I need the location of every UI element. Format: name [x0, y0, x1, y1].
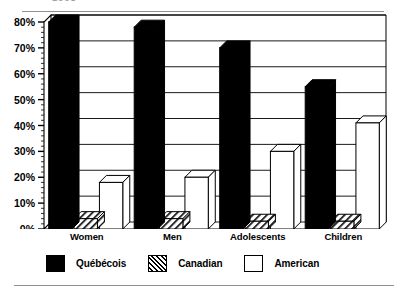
- bottom-divider-rule: [14, 285, 394, 286]
- y-tick-label: 40%: [14, 120, 36, 132]
- bar-front-face: [305, 87, 328, 229]
- bar-québécois-adolescents: [220, 41, 250, 229]
- y-tick-label: 0%: [20, 223, 36, 229]
- legend-item-canadian: Canadian: [148, 255, 222, 272]
- caption-partial-text: 1993: [52, 0, 76, 3]
- y-tick-label: 20%: [14, 171, 36, 183]
- bar-front-face: [220, 48, 243, 229]
- figure-bar-chart: 1993 80%70%60%50%40%30%20%10%0% Women Me…: [0, 0, 408, 300]
- bar-side-face: [379, 116, 386, 229]
- legend-item-quebecois: Québécois: [46, 255, 126, 272]
- x-category-adolescents: Adolescents: [215, 231, 301, 245]
- bar-front-face: [49, 22, 72, 229]
- bars: [49, 15, 387, 229]
- y-tick-labels: 80%70%60%50%40%30%20%10%0%: [14, 16, 44, 229]
- y-tick-label: 30%: [14, 145, 36, 157]
- bar-side-face: [72, 15, 79, 229]
- bar-front-face: [134, 27, 157, 229]
- legend-swatch-american-icon: [244, 255, 263, 272]
- bar-québécois-children: [305, 80, 335, 229]
- bar-american-children: [356, 116, 386, 229]
- y-tick-label: 70%: [14, 42, 36, 54]
- y-tick-label: 10%: [14, 197, 36, 209]
- legend-swatch-quebecois-icon: [46, 255, 65, 272]
- x-category-men: Men: [130, 231, 216, 245]
- chart-legend: Québécois Canadian American: [46, 252, 376, 274]
- top-divider-rule: [22, 11, 384, 12]
- legend-label-quebecois: Québécois: [76, 258, 126, 269]
- x-category-children: Children: [301, 231, 387, 245]
- bar-side-face: [329, 80, 336, 229]
- legend-item-american: American: [244, 255, 319, 272]
- bar-side-face: [243, 41, 250, 229]
- bar-side-face: [208, 170, 215, 229]
- bar-québécois-men: [134, 20, 164, 229]
- y-tick-label: 60%: [14, 68, 36, 80]
- bar-québécois-women: [49, 15, 79, 229]
- y-tick-label: 80%: [14, 16, 36, 28]
- bar-side-face: [294, 144, 301, 229]
- bar-side-face: [158, 20, 165, 229]
- chart-canvas: 80%70%60%50%40%30%20%10%0%: [0, 14, 408, 229]
- bar-front-face: [356, 123, 379, 229]
- bar-side-face: [123, 175, 130, 229]
- legend-label-american: American: [274, 258, 319, 269]
- legend-label-canadian: Canadian: [178, 258, 222, 269]
- legend-swatch-canadian-icon: [148, 255, 167, 272]
- y-tick-label: 50%: [14, 94, 36, 106]
- x-category-women: Women: [44, 231, 130, 245]
- plot-area: 80%70%60%50%40%30%20%10%0%: [0, 14, 408, 229]
- x-axis-category-labels: Women Men Adolescents Children: [44, 231, 386, 245]
